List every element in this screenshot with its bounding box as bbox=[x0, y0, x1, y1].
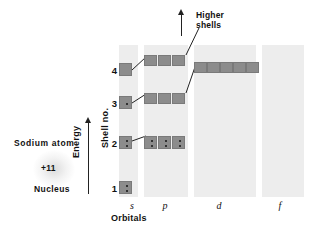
electron-dot bbox=[151, 145, 153, 147]
nucleus-charge-label: +11 bbox=[41, 163, 56, 173]
orbital-box-s4 bbox=[119, 63, 132, 76]
orbital-box-s2 bbox=[119, 136, 132, 149]
shell-number-2: 2 bbox=[107, 138, 117, 149]
orbital-label-p: p bbox=[160, 200, 170, 211]
orbital-band-p bbox=[144, 45, 188, 197]
shell-number-1: 1 bbox=[107, 183, 117, 194]
orbital-box-p3c bbox=[172, 93, 185, 104]
electron-dot bbox=[126, 185, 128, 187]
electron-dot bbox=[165, 140, 167, 142]
shell-number-3: 3 bbox=[107, 98, 117, 109]
electron-dot bbox=[126, 140, 128, 142]
orbital-box-d4c bbox=[220, 62, 233, 73]
orbital-box-p2a bbox=[144, 136, 157, 149]
sodium-atom-label: Sodium atom bbox=[14, 138, 74, 148]
orbitals-caption: Orbitals bbox=[111, 213, 147, 223]
orbital-box-p3b bbox=[158, 93, 171, 104]
orbital-box-s3 bbox=[119, 96, 132, 109]
orbital-box-d4d bbox=[233, 62, 246, 73]
electron-dot bbox=[126, 190, 128, 192]
orbital-box-p4b bbox=[158, 55, 171, 66]
electron-dot bbox=[165, 145, 167, 147]
energy-axis-arrow bbox=[88, 122, 89, 194]
orbital-box-d4b bbox=[207, 62, 220, 73]
higher-shells-arrow-icon bbox=[181, 14, 182, 36]
orbital-box-p3a bbox=[144, 93, 157, 104]
nucleus-label: Nucleus bbox=[34, 184, 70, 194]
electron-dot bbox=[126, 145, 128, 147]
electron-dot bbox=[179, 140, 181, 142]
higher-shells-line-1: Higher bbox=[196, 10, 224, 20]
electron-dot bbox=[179, 145, 181, 147]
energy-axis-label: Energy bbox=[71, 126, 81, 158]
electron-dot bbox=[126, 103, 128, 105]
electron-dot bbox=[151, 140, 153, 142]
figure-canvas: Sodium atom +11 Nucleus Energy Shell no.… bbox=[0, 0, 309, 232]
orbital-box-p4a bbox=[144, 55, 157, 66]
orbital-label-d: d bbox=[214, 200, 224, 211]
orbital-box-p4c bbox=[172, 55, 185, 66]
orbital-box-s1 bbox=[119, 181, 132, 194]
higher-shells-line-2: shells bbox=[196, 20, 224, 30]
orbital-label-f: f bbox=[275, 200, 285, 211]
higher-shells-annotation: Higher shells bbox=[196, 10, 224, 30]
orbital-band-f bbox=[262, 45, 304, 197]
orbital-box-d4a bbox=[194, 62, 207, 73]
orbital-box-d4e bbox=[246, 62, 259, 73]
orbital-box-p2b bbox=[158, 136, 171, 149]
shell-number-4: 4 bbox=[107, 65, 117, 76]
orbital-label-s: s bbox=[127, 200, 137, 211]
orbital-box-p2c bbox=[172, 136, 185, 149]
